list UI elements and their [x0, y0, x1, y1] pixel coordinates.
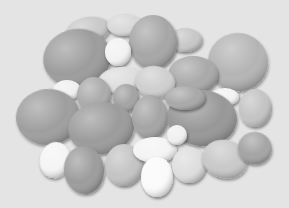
egg — [141, 157, 173, 197]
eggs — [14, 13, 276, 197]
egg — [129, 15, 177, 69]
egg — [239, 89, 271, 127]
egg — [105, 38, 131, 66]
egg-photo — [0, 0, 289, 208]
egg-pile-illustration — [0, 0, 289, 208]
egg — [167, 125, 187, 145]
egg — [203, 28, 272, 96]
egg — [132, 95, 168, 139]
egg — [172, 147, 206, 183]
egg — [165, 86, 205, 110]
